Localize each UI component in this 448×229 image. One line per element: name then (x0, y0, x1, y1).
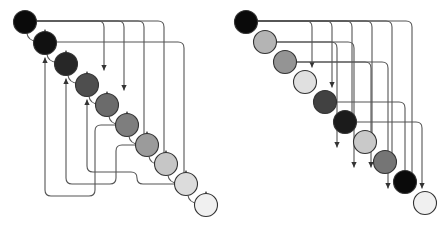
right-diagram-panel (224, 0, 448, 229)
graph-node[interactable] (254, 31, 277, 54)
graph-node[interactable] (14, 11, 37, 34)
graph-node[interactable] (116, 114, 139, 137)
graph-node[interactable] (195, 194, 218, 217)
graph-node[interactable] (394, 171, 417, 194)
left-node-group (14, 11, 218, 217)
figure-canvas (0, 0, 448, 229)
graph-node[interactable] (314, 91, 337, 114)
graph-node[interactable] (274, 51, 297, 74)
graph-node[interactable] (136, 134, 159, 157)
graph-node[interactable] (334, 111, 357, 134)
graph-node[interactable] (294, 71, 317, 94)
graph-node[interactable] (96, 94, 119, 117)
graph-node[interactable] (76, 74, 99, 97)
graph-node[interactable] (235, 11, 258, 34)
right-edge-group (258, 21, 423, 189)
right-node-group (235, 11, 437, 215)
left-diagram-svg (0, 0, 224, 229)
graph-node[interactable] (55, 53, 78, 76)
graph-node[interactable] (414, 192, 437, 215)
graph-node[interactable] (175, 173, 198, 196)
graph-node[interactable] (354, 131, 377, 154)
left-diagram-panel (0, 0, 224, 229)
graph-node[interactable] (155, 153, 178, 176)
graph-node[interactable] (34, 32, 57, 55)
graph-node[interactable] (374, 151, 397, 174)
right-diagram-svg (224, 0, 448, 229)
